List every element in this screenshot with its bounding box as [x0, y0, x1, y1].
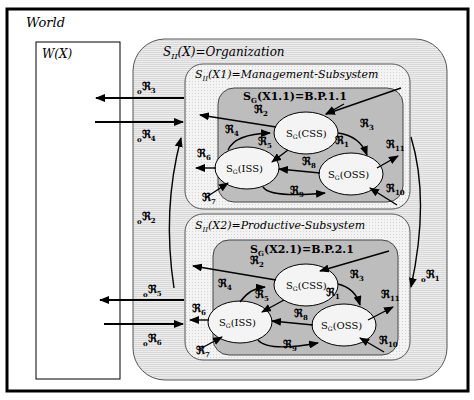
productive-iss-label: SG(ISS): [219, 317, 256, 329]
environment-label: W(X): [42, 47, 73, 61]
world-label: World: [26, 15, 65, 30]
diagram-canvas: World W(X) SII(X)=Organization SII(X1)=M…: [0, 0, 474, 400]
management-iss-label: SG(ISS): [226, 163, 263, 175]
productive-subsystem-label: SII(X2)=Productive-Subsystem: [195, 219, 365, 234]
management-subsystem-label: SII(X1)=Management-Subsystem: [195, 68, 378, 83]
productive-oss-label: SG(OSS): [321, 320, 362, 332]
organization-label: SII(X)=Organization: [163, 45, 285, 61]
environment-box: [36, 42, 120, 379]
management-oss-label: SG(OSS): [328, 169, 369, 181]
productive-css-label: SG(CSS): [286, 280, 327, 292]
productive-process-label: SG(X2.1)=B.P.2.1: [250, 243, 354, 258]
management-css-label: SG(CSS): [286, 128, 327, 140]
